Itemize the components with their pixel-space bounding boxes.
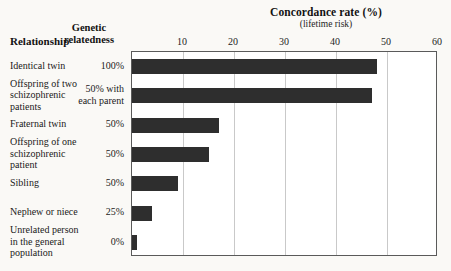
row-genetic-relatedness-3: 50% — [42, 118, 124, 130]
row-genetic-relatedness-6: 25% — [42, 206, 124, 218]
row-genetic-relatedness-line: 25% — [42, 206, 124, 218]
row-genetic-relatedness-2: 50% witheach parent — [42, 83, 124, 106]
gridline-30 — [285, 52, 286, 255]
row-genetic-relatedness-4: 50% — [42, 148, 124, 160]
row-genetic-relatedness-line: 0% — [42, 236, 124, 248]
bar-4 — [132, 147, 209, 162]
concordance-rate-figure: Concordance rate (%) (lifetime risk) Rel… — [0, 0, 451, 271]
x-axis-tick-40: 40 — [322, 36, 348, 47]
row-label-line: Unrelated person — [10, 224, 115, 236]
x-axis-tick-10: 10 — [169, 36, 195, 47]
chart-title: Concordance rate (%) — [196, 6, 451, 19]
chart-title-block: Concordance rate (%) (lifetime risk) — [196, 6, 451, 30]
x-axis-tick-60: 60 — [424, 36, 450, 47]
chart-subtitle: (lifetime risk) — [196, 19, 451, 30]
row-genetic-relatedness-7: 0% — [42, 236, 124, 248]
x-axis-tick-20: 20 — [220, 36, 246, 47]
gridline-50 — [387, 52, 388, 255]
x-axis-tick-50: 50 — [373, 36, 399, 47]
row-genetic-relatedness-line: 50% — [42, 118, 124, 130]
bar-5 — [132, 176, 178, 191]
row-genetic-relatedness-line: 100% — [42, 60, 124, 72]
gridline-20 — [234, 52, 235, 255]
bar-1 — [132, 59, 377, 74]
column-header-genetic-relatedness: Genetic relatedness — [54, 22, 124, 46]
bar-6 — [132, 206, 152, 221]
row-genetic-relatedness-1: 100% — [42, 60, 124, 72]
column-header-genetic-relatedness-line1: Genetic — [54, 22, 124, 34]
row-genetic-relatedness-line: each parent — [42, 95, 124, 107]
bar-2 — [132, 88, 372, 103]
row-genetic-relatedness-line: 50% with — [42, 83, 124, 95]
bar-7 — [132, 235, 137, 250]
x-axis-tick-30: 30 — [271, 36, 297, 47]
row-genetic-relatedness-5: 50% — [42, 177, 124, 189]
row-label-line: patient — [10, 159, 115, 171]
gridline-40 — [336, 52, 337, 255]
bar-3 — [132, 118, 219, 133]
row-genetic-relatedness-line: 50% — [42, 148, 124, 160]
plot-area — [131, 51, 437, 256]
row-label-line: Offspring of one — [10, 136, 115, 148]
row-genetic-relatedness-line: 50% — [42, 177, 124, 189]
row-label-line: population — [10, 247, 115, 259]
column-header-genetic-relatedness-line2: relatedness — [54, 34, 124, 46]
